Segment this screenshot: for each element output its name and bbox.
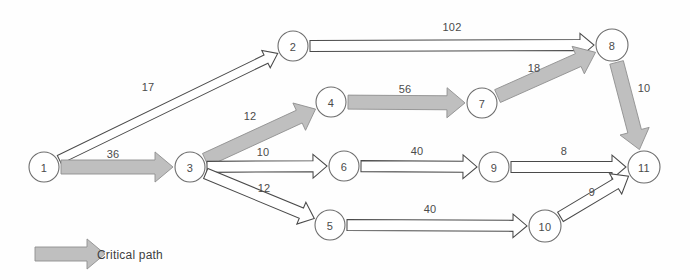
activity-network-diagram: 1234567891011 1736102121012561810408409 … <box>0 0 690 280</box>
node-9: 9 <box>479 152 509 182</box>
edge-arrow-7-to-8 <box>495 46 596 102</box>
edge-arrow-5-to-10 <box>347 214 527 238</box>
node-label-3: 3 <box>187 162 193 174</box>
edge-label-6-to-9: 40 <box>411 145 424 157</box>
edge-label-4-to-7: 56 <box>399 83 412 95</box>
network-diagram-canvas: 1234567891011 1736102121012561810408409 … <box>0 0 690 280</box>
edge-arrow-9-to-11 <box>511 155 626 179</box>
edge-label-1-to-3: 36 <box>107 148 120 160</box>
node-11: 11 <box>628 151 660 183</box>
critical-path-arrow-swatch <box>35 239 105 269</box>
edge-label-10-to-11: 9 <box>589 186 595 198</box>
node-label-1: 1 <box>41 162 47 174</box>
node-6: 6 <box>329 151 359 181</box>
node-8: 8 <box>596 29 628 61</box>
edge-arrow-6-to-9 <box>361 155 477 179</box>
edge-label-1-to-2: 17 <box>142 81 155 93</box>
node-label-11: 11 <box>638 162 650 174</box>
edge-arrow-8-to-11 <box>610 61 649 150</box>
edge-label-2-to-8: 102 <box>443 21 462 33</box>
node-2: 2 <box>278 31 308 61</box>
node-label-8: 8 <box>609 40 615 52</box>
edge-label-5-to-10: 40 <box>424 203 437 215</box>
edge-arrow-2-to-8 <box>310 33 594 57</box>
node-label-6: 6 <box>341 161 347 173</box>
legend-label: Critical path <box>97 248 163 262</box>
node-7: 7 <box>467 88 497 118</box>
node-label-4: 4 <box>328 97 334 109</box>
edge-label-8-to-11: 10 <box>638 82 651 94</box>
edge-arrow-3-to-5 <box>204 168 315 224</box>
node-1: 1 <box>29 152 59 182</box>
node-3: 3 <box>175 152 205 182</box>
edge-label-9-to-11: 8 <box>561 145 567 157</box>
node-label-9: 9 <box>491 162 497 174</box>
node-label-10: 10 <box>539 221 552 233</box>
node-label-7: 7 <box>479 98 485 110</box>
edge-label-7-to-8: 18 <box>528 62 541 74</box>
node-label-2: 2 <box>290 41 296 53</box>
node-5: 5 <box>315 210 345 240</box>
node-label-5: 5 <box>327 220 333 232</box>
node-4: 4 <box>316 87 346 117</box>
edge-label-3-to-5: 12 <box>258 182 271 194</box>
edges-layer <box>57 33 649 237</box>
legend-layer: Critical path <box>35 239 163 269</box>
edge-label-3-to-6: 10 <box>257 146 270 158</box>
node-10: 10 <box>529 210 561 242</box>
edge-label-3-to-4: 12 <box>244 110 257 122</box>
